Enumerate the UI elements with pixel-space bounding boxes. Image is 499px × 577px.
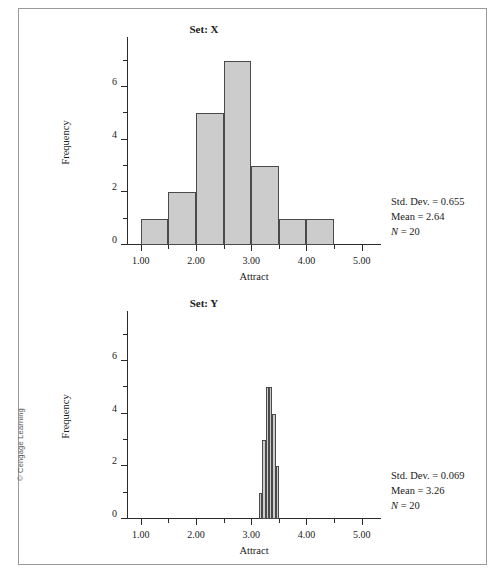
histogram-panel-set-y: Set: Y Frequency Attract 02461.002.003.0…: [39, 297, 486, 567]
x-axis-minor-tick: [168, 519, 169, 523]
x-axis-tick-label: 3.00: [231, 530, 271, 540]
chart-title-set-x: Set: X: [39, 23, 369, 35]
n-symbol-set-y: N: [391, 500, 398, 511]
x-axis-title-set-y: Attract: [127, 545, 381, 556]
x-axis-tick-label: 2.00: [176, 530, 216, 540]
x-axis-tick: [196, 519, 197, 525]
y-axis-minor-tick: [123, 218, 127, 219]
n-count-set-x: = 20: [401, 226, 420, 237]
histogram-bar: [251, 166, 279, 245]
y-axis-tick: [121, 465, 127, 466]
y-axis-tick-label: 4: [99, 130, 117, 140]
x-axis-tick: [141, 519, 142, 525]
histogram-bar: [168, 192, 196, 245]
y-axis-tick-label: 0: [99, 235, 117, 245]
n-symbol-set-x: N: [391, 226, 398, 237]
y-axis-title-set-x: Frequency: [60, 98, 71, 188]
y-axis-minor-tick: [123, 386, 127, 387]
x-axis-tick: [306, 245, 307, 251]
histogram-bar: [276, 466, 279, 519]
x-axis-minor-tick: [334, 245, 335, 249]
figure-frame: © Cengage Learning Set: X Frequency Attr…: [18, 8, 487, 565]
x-axis-minor-tick: [279, 245, 280, 249]
std-dev-value-set-x: Std. Dev. = 0.655: [391, 195, 465, 210]
x-axis-tick: [196, 245, 197, 251]
histogram-bar: [141, 219, 169, 245]
statistics-block-set-y: Std. Dev. = 0.069 Mean = 3.26 N = 20: [391, 469, 465, 514]
x-axis-minor-tick: [279, 519, 280, 523]
y-axis-tick: [121, 518, 127, 519]
x-axis-tick: [251, 245, 252, 251]
x-axis-tick: [306, 519, 307, 525]
x-axis-tick-label: 2.00: [176, 256, 216, 266]
y-axis-tick: [121, 139, 127, 140]
histogram-panel-set-x: Set: X Frequency Attract 02461.002.003.0…: [39, 23, 486, 295]
mean-value-set-x: Mean = 2.64: [391, 210, 465, 225]
y-axis-title-set-y: Frequency: [60, 372, 71, 462]
x-axis-tick: [141, 245, 142, 251]
x-axis-tick: [251, 519, 252, 525]
plot-area-set-x: Frequency Attract 02461.002.003.004.005.…: [127, 45, 352, 245]
x-axis-line: [127, 518, 381, 519]
mean-value-set-y: Mean = 3.26: [391, 484, 465, 499]
y-axis-tick-label: 2: [99, 456, 117, 466]
y-axis-tick-label: 2: [99, 182, 117, 192]
histogram-bar: [279, 219, 307, 245]
x-axis-tick: [362, 245, 363, 251]
y-axis-tick-label: 4: [99, 404, 117, 414]
x-axis-tick-label: 5.00: [342, 530, 382, 540]
plot-area-set-y: Frequency Attract 02461.002.003.004.005.…: [127, 319, 352, 519]
x-axis-tick-label: 3.00: [231, 256, 271, 266]
y-axis-tick: [121, 86, 127, 87]
x-axis-tick-label: 4.00: [286, 256, 326, 266]
y-axis-minor-tick: [123, 112, 127, 113]
statistics-block-set-x: Std. Dev. = 0.655 Mean = 2.64 N = 20: [391, 195, 465, 240]
y-axis-minor-tick: [123, 165, 127, 166]
n-count-set-y: = 20: [401, 500, 420, 511]
y-axis-tick: [121, 244, 127, 245]
x-axis-tick-label: 1.00: [121, 256, 161, 266]
y-axis-line: [127, 37, 128, 245]
std-dev-value-set-y: Std. Dev. = 0.069: [391, 469, 465, 484]
x-axis-tick-label: 4.00: [286, 530, 326, 540]
x-axis-tick: [362, 519, 363, 525]
y-axis-minor-tick: [123, 439, 127, 440]
y-axis-tick: [121, 360, 127, 361]
n-value-set-x: N = 20: [391, 225, 465, 240]
y-axis-tick: [121, 191, 127, 192]
y-axis-tick-label: 6: [99, 351, 117, 361]
x-axis-minor-tick: [224, 519, 225, 523]
x-axis-title-set-x: Attract: [127, 271, 381, 282]
x-axis-minor-tick: [334, 519, 335, 523]
x-axis-tick-label: 1.00: [121, 530, 161, 540]
histogram-bar: [224, 61, 252, 245]
x-axis-minor-tick: [224, 245, 225, 249]
histogram-bar: [196, 113, 224, 245]
y-axis-tick-label: 0: [99, 509, 117, 519]
y-axis-tick: [121, 413, 127, 414]
copyright-notice: © Cengage Learning: [16, 361, 25, 481]
y-axis-tick-label: 6: [99, 77, 117, 87]
y-axis-minor-tick: [123, 60, 127, 61]
chart-title-set-y: Set: Y: [39, 297, 369, 309]
y-axis-minor-tick: [123, 334, 127, 335]
histogram-bar: [306, 219, 334, 245]
x-axis-tick-label: 5.00: [342, 256, 382, 266]
n-value-set-y: N = 20: [391, 499, 465, 514]
y-axis-minor-tick: [123, 492, 127, 493]
x-axis-minor-tick: [168, 245, 169, 249]
y-axis-line: [127, 311, 128, 519]
